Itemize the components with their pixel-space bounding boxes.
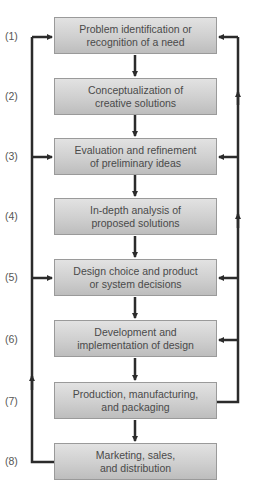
step-box-production: Production, manufacturing,and packaging bbox=[54, 382, 217, 419]
step-text-line2: proposed solutions bbox=[91, 217, 179, 229]
step-text-line2: recognition of a need bbox=[86, 36, 184, 48]
step-text-line1: Conceptualization of bbox=[88, 84, 183, 96]
step-text-line1: Development and bbox=[94, 326, 176, 338]
step-number-4: (4) bbox=[5, 210, 29, 222]
step-number-2: (2) bbox=[5, 90, 29, 102]
step-text-line1: In-depth analysis of bbox=[90, 204, 181, 216]
step-text-line1: Problem identification or bbox=[79, 23, 192, 35]
step-text-line2: or system decisions bbox=[89, 278, 181, 290]
step-box-development: Development andimplementation of design bbox=[54, 320, 217, 357]
step-text-line2: of preliminary ideas bbox=[90, 157, 181, 169]
step-number-8: (8) bbox=[5, 455, 29, 467]
step-box-marketing: Marketing, sales,and distribution bbox=[54, 443, 217, 480]
step-number-3: (3) bbox=[5, 150, 29, 162]
step-text-line2: and distribution bbox=[100, 462, 171, 474]
step-box-analysis: In-depth analysis ofproposed solutions bbox=[54, 198, 217, 235]
step-box-problem-identification: Problem identification orrecognition of … bbox=[54, 17, 217, 54]
step-text-line1: Production, manufacturing, bbox=[73, 388, 199, 400]
step-text-line2: and packaging bbox=[101, 401, 169, 413]
step-text-line2: implementation of design bbox=[77, 339, 194, 351]
step-box-design-choice: Design choice and productor system decis… bbox=[54, 259, 217, 296]
step-number-7: (7) bbox=[5, 395, 29, 407]
step-text-line1: Marketing, sales, bbox=[96, 449, 175, 461]
step-text-line2: creative solutions bbox=[95, 97, 176, 109]
step-number-1: (1) bbox=[5, 30, 29, 42]
step-text-line1: Evaluation and refinement bbox=[75, 144, 197, 156]
step-text-line1: Design choice and product bbox=[73, 265, 197, 277]
step-box-evaluation: Evaluation and refinementof preliminary … bbox=[54, 138, 217, 175]
step-number-5: (5) bbox=[5, 271, 29, 283]
step-number-6: (6) bbox=[5, 333, 29, 345]
step-box-conceptualization: Conceptualization ofcreative solutions bbox=[54, 78, 217, 115]
